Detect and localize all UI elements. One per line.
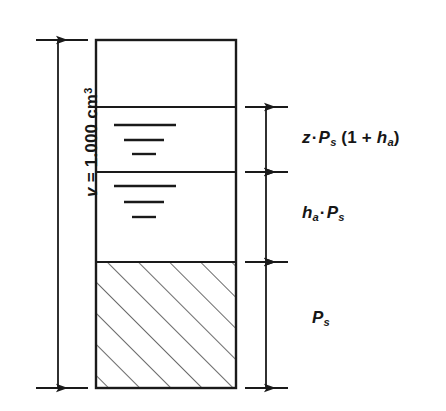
vapor-section-level-ticks <box>114 125 176 154</box>
diagram-canvas <box>0 0 446 411</box>
overall-volume-dimension <box>36 40 88 388</box>
liquid-section-level-ticks <box>114 186 176 217</box>
solid-section-hatch-fill <box>97 263 235 387</box>
section-dividers <box>96 107 236 262</box>
volume-composition-diagram: v = 1.000 cm3 z·Ps (1 + ha) ha·Ps Ps <box>0 0 446 411</box>
